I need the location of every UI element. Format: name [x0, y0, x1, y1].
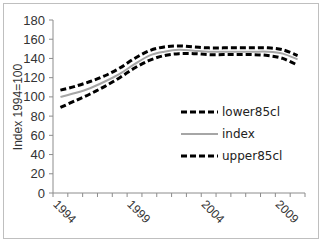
- y-tick-label: 140: [23, 51, 45, 66]
- y-tick-label: 0: [38, 186, 45, 201]
- y-tick-label: 180: [23, 13, 45, 28]
- legend-label: index: [222, 127, 255, 141]
- y-tick-label: 60: [31, 128, 45, 143]
- y-tick-label: 120: [23, 70, 45, 85]
- series-lines: [60, 46, 297, 108]
- y-tick-label: 40: [31, 147, 45, 162]
- y-tick-label: 160: [23, 32, 45, 47]
- y-ticks: 020406080100120140160180: [23, 13, 53, 201]
- x-tick-label: 2009: [273, 197, 302, 226]
- y-axis-label: Index 1994=100: [11, 63, 25, 150]
- line-chart: 020406080100120140160180 199419992004200…: [0, 0, 322, 244]
- y-tick-label: 100: [23, 89, 45, 104]
- legend-label: lower85cl: [222, 105, 280, 119]
- y-tick-label: 20: [31, 166, 45, 181]
- x-tick-label: 1999: [124, 197, 153, 226]
- x-tick-label: 1994: [50, 197, 79, 226]
- x-tick-label: 2004: [199, 197, 228, 226]
- y-tick-label: 80: [31, 109, 45, 124]
- x-ticks: 1994199920042009: [50, 193, 305, 226]
- legend: lower85clindexupper85cl: [181, 105, 282, 163]
- legend-label: upper85cl: [222, 149, 282, 163]
